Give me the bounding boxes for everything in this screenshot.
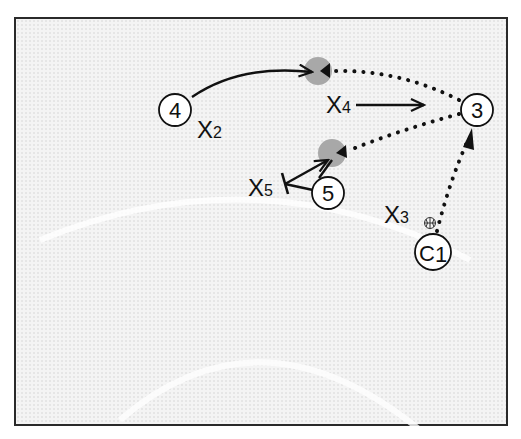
svg-text:X3: X3 bbox=[384, 201, 409, 228]
defender-x4[interactable]: X4 bbox=[326, 91, 351, 118]
basketball-icon bbox=[425, 218, 436, 229]
player-5[interactable]: 5 bbox=[312, 177, 344, 209]
pass-path-3-top bbox=[336, 71, 459, 100]
svg-text:X5: X5 bbox=[248, 174, 273, 201]
player-3[interactable]: 3 bbox=[461, 94, 493, 126]
svg-text:1: 1 bbox=[435, 242, 447, 267]
defender-x5[interactable]: X5 bbox=[248, 174, 273, 201]
svg-text:4: 4 bbox=[169, 98, 181, 123]
play-diagram: 4 3 5 C 1 X2 X4 X5 X3 bbox=[0, 0, 521, 439]
player-c1[interactable]: C 1 bbox=[415, 234, 451, 270]
pass-arrowhead bbox=[463, 128, 474, 150]
svg-text:X2: X2 bbox=[197, 116, 222, 143]
svg-text:X4: X4 bbox=[326, 91, 351, 118]
screen-line-5-x5 bbox=[285, 184, 313, 190]
svg-text:3: 3 bbox=[471, 98, 483, 123]
svg-text:5: 5 bbox=[322, 181, 334, 206]
pass-path-3-mid bbox=[350, 114, 459, 150]
pass-path-c1-3 bbox=[437, 140, 468, 231]
cut-path-4 bbox=[192, 70, 312, 97]
court-lines bbox=[40, 200, 470, 431]
defender-x3[interactable]: X3 bbox=[384, 201, 409, 228]
svg-text:C: C bbox=[419, 241, 435, 266]
defender-x2[interactable]: X2 bbox=[197, 116, 222, 143]
player-4[interactable]: 4 bbox=[159, 94, 191, 126]
